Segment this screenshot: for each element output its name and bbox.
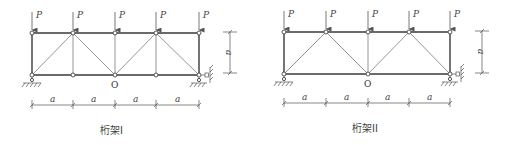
- load-label: P: [76, 10, 84, 20]
- diagonal-member: [73, 33, 115, 75]
- node: [154, 73, 158, 77]
- height-dimension: a: [223, 30, 237, 75]
- span-label: a: [427, 92, 432, 102]
- truss-1: P P P P P O: [22, 10, 237, 136]
- span-dimension: a a a a: [282, 92, 452, 107]
- load-label: P: [287, 9, 295, 19]
- span-label: a: [385, 92, 390, 102]
- roller-support-icon: [201, 65, 213, 83]
- truss-diagram: P P P P P O: [0, 0, 505, 145]
- nodes: [30, 31, 201, 77]
- diagonal-member: [156, 33, 199, 75]
- span-label: a: [344, 92, 349, 102]
- height-dimension: a: [475, 29, 489, 75]
- diagonal-member: [32, 33, 73, 75]
- diagonal-member: [409, 32, 450, 74]
- pin-support-icon: [190, 77, 207, 87]
- pin-support-icon: [22, 77, 41, 87]
- node-O-label: O: [111, 80, 118, 90]
- height-label: a: [224, 50, 234, 55]
- span-label: a: [302, 92, 307, 102]
- caption: 桁架II: [352, 122, 378, 134]
- node-O-label: O: [364, 79, 371, 89]
- caption: 桁架I: [100, 124, 123, 136]
- load-label: P: [329, 9, 337, 19]
- node: [197, 31, 201, 35]
- load-label: P: [371, 9, 379, 19]
- node: [407, 30, 411, 34]
- load-arrows: P P P P P: [284, 9, 461, 29]
- node: [366, 30, 370, 34]
- load-label: P: [202, 10, 210, 20]
- node-O: [366, 72, 370, 76]
- node: [30, 73, 34, 77]
- node: [282, 72, 286, 76]
- load-arrows: P P P P P: [32, 10, 210, 30]
- node: [197, 73, 201, 77]
- node: [71, 31, 75, 35]
- span-label: a: [175, 94, 180, 104]
- pin-support-icon: [274, 76, 293, 86]
- load-label: P: [453, 9, 461, 19]
- span-label: a: [50, 94, 55, 104]
- truss-2: P P P P P O: [274, 9, 489, 134]
- height-label: a: [476, 49, 486, 54]
- pin-support-icon: [441, 76, 458, 86]
- load-label: P: [35, 10, 43, 20]
- load-label: P: [159, 10, 167, 20]
- roller-support-icon: [452, 64, 464, 82]
- diagonal-member: [284, 32, 326, 74]
- node: [282, 30, 286, 34]
- load-label: P: [412, 9, 420, 19]
- diagonal-member: [326, 32, 368, 74]
- span-label: a: [133, 94, 138, 104]
- diagonal-member: [368, 32, 409, 74]
- load-label: P: [118, 10, 126, 20]
- node: [448, 72, 452, 76]
- node: [448, 30, 452, 34]
- node: [324, 30, 328, 34]
- node: [71, 73, 75, 77]
- node: [30, 31, 34, 35]
- span-dimension: a a a a: [30, 94, 201, 109]
- node-O: [113, 73, 117, 77]
- node: [154, 31, 158, 35]
- diagonal-member: [115, 33, 156, 75]
- span-label: a: [91, 94, 96, 104]
- node: [113, 31, 117, 35]
- nodes: [282, 30, 452, 76]
